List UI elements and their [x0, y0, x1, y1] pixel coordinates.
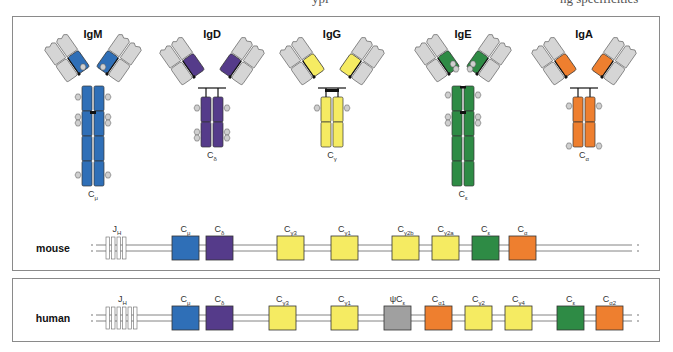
jh-segment — [112, 237, 116, 259]
glycan-icon — [100, 64, 106, 70]
glycan-icon — [445, 92, 451, 98]
fc-domain-left — [452, 111, 462, 136]
glycan-icon — [566, 103, 572, 109]
antibody-iga: IgA — [531, 28, 638, 149]
constant-gene-label: Cμ — [181, 294, 192, 306]
fab-arm-right — [590, 36, 637, 87]
constant-gene-segment — [384, 306, 411, 330]
glycan-icon — [467, 66, 473, 72]
constant-gene-segment — [472, 236, 499, 260]
fab-arm-right — [465, 33, 512, 84]
constant-gene-label: Cγ1 — [338, 294, 352, 306]
jh-segment — [106, 237, 110, 259]
fc-domain-right — [464, 136, 474, 161]
constant-gene-segment — [596, 306, 623, 330]
antibody-title: IgD — [203, 28, 221, 40]
fc-domain-left — [452, 161, 462, 186]
glycan-icon — [224, 135, 230, 141]
jh-segment — [128, 307, 132, 329]
fab-arm-right — [218, 36, 265, 87]
constant-gene-label: Cα1 — [432, 294, 446, 306]
constant-gene-segment — [557, 306, 584, 330]
heavy-chain-label: Cμ — [88, 189, 99, 201]
fc-domain-right — [94, 161, 104, 186]
glycan-icon — [344, 105, 350, 111]
fc-domain-left — [452, 136, 462, 161]
isotype-diagram: IgMCμIgDCδIgGCγIgECεIgACαmouseJHCμCδCγ3C… — [0, 0, 673, 352]
constant-gene-label: Cγ3 — [284, 224, 298, 236]
constant-gene-segment — [331, 236, 358, 260]
glycan-icon — [80, 64, 86, 70]
glycan-icon — [105, 114, 111, 120]
jh-label: JH — [113, 224, 122, 236]
mouse-locus: mouse — [36, 236, 639, 260]
constant-gene-segment — [277, 236, 304, 260]
constant-gene-segment — [509, 236, 536, 260]
fc-domain-left — [201, 122, 211, 147]
fc-domain-right — [94, 136, 104, 161]
constant-gene-label: Cα2 — [603, 294, 617, 306]
jh-segment — [123, 307, 127, 329]
constant-gene-segment — [206, 236, 233, 260]
fab-arm-left — [279, 36, 326, 87]
glycan-icon — [105, 120, 111, 126]
constant-gene-label: Cα — [518, 224, 529, 236]
glycan-icon — [75, 172, 81, 178]
glycan-icon — [314, 105, 320, 111]
fc-domain-right — [464, 111, 474, 136]
fab-arm-left — [44, 33, 91, 84]
fab-arm-left — [414, 33, 461, 84]
constant-gene-label: Cγ3 — [276, 294, 290, 306]
constant-gene-label: Cγ2 — [472, 294, 486, 306]
fab-arm-right — [95, 33, 142, 84]
constant-gene-label: Cε — [481, 224, 491, 236]
glycan-icon — [75, 120, 81, 126]
glycan-icon — [75, 94, 81, 100]
heavy-chain-label: Cε — [458, 189, 468, 201]
constant-gene-label: Cγ2b — [397, 224, 414, 236]
glycan-icon — [475, 114, 481, 120]
jh-segment — [134, 307, 138, 329]
antibody-title: IgM — [84, 28, 103, 40]
antibody-title: IgE — [454, 28, 471, 40]
jh-segment — [117, 237, 121, 259]
glycan-icon — [105, 94, 111, 100]
jh-segment — [106, 307, 110, 329]
fc-domain-right — [213, 122, 223, 147]
constant-gene-segment — [392, 236, 419, 260]
fc-domain-right — [213, 97, 223, 122]
jh-label: JH — [118, 294, 127, 306]
fc-domain-left — [573, 122, 583, 147]
constant-gene-label: Cμ — [181, 224, 192, 236]
antibody-ige: IgE — [414, 28, 513, 186]
fc-domain-right — [585, 122, 595, 147]
heavy-chain-label: Cα — [579, 150, 590, 162]
antibody-igd: IgD — [159, 28, 266, 147]
glycan-icon — [596, 103, 602, 109]
glycan-icon — [224, 105, 230, 111]
fc-domain-left — [82, 136, 92, 161]
constant-gene-label: Cε — [566, 294, 576, 306]
fc-domain-left — [321, 97, 331, 122]
jh-segment — [112, 307, 116, 329]
fc-domain-right — [94, 86, 104, 111]
constant-gene-segment — [206, 306, 233, 330]
constant-gene-segment — [172, 306, 199, 330]
constant-gene-label: ψCε — [390, 294, 406, 306]
constant-gene-label: Cγ4 — [512, 294, 526, 306]
fc-domain-left — [201, 97, 211, 122]
antibody-title: IgA — [575, 28, 593, 40]
fab-arm-left — [159, 36, 206, 87]
fc-domain-left — [82, 111, 92, 136]
constant-gene-segment — [425, 306, 452, 330]
fab-arm-right — [338, 36, 385, 87]
fc-domain-left — [321, 122, 331, 147]
constant-gene-segment — [269, 306, 296, 330]
fc-domain-right — [464, 161, 474, 186]
glycan-icon — [596, 143, 602, 149]
heavy-chain-label: Cγ — [327, 150, 337, 162]
glycan-icon — [194, 105, 200, 111]
glycan-icon — [475, 120, 481, 126]
glycan-icon — [445, 114, 451, 120]
constant-gene-label: Cδ — [215, 224, 226, 236]
